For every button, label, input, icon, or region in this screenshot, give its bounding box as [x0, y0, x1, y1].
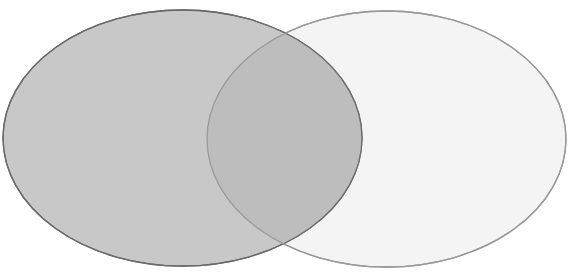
- venn-diagram-svg: [0, 0, 569, 280]
- venn-diagram: [0, 0, 569, 280]
